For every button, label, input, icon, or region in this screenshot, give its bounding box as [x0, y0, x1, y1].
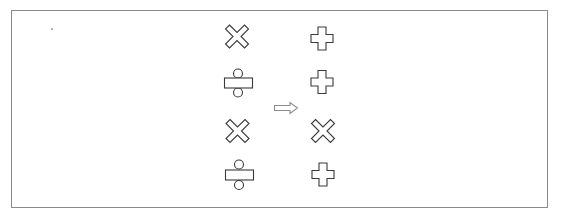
left-row-1-multiply-icon — [226, 25, 249, 48]
double-arrow-right-icon — [275, 103, 298, 114]
left-row-2-divide-icon — [225, 69, 253, 97]
left-row-3-multiply-icon — [226, 120, 249, 143]
scan-speck — [51, 28, 53, 30]
left-row-4-divide-icon — [226, 160, 254, 190]
right-row-1-plus-icon — [311, 27, 333, 50]
figure-canvas — [0, 0, 561, 220]
right-row-3-multiply-icon — [312, 120, 335, 143]
right-row-2-plus-icon — [311, 71, 333, 94]
right-row-4-plus-icon — [312, 163, 334, 186]
